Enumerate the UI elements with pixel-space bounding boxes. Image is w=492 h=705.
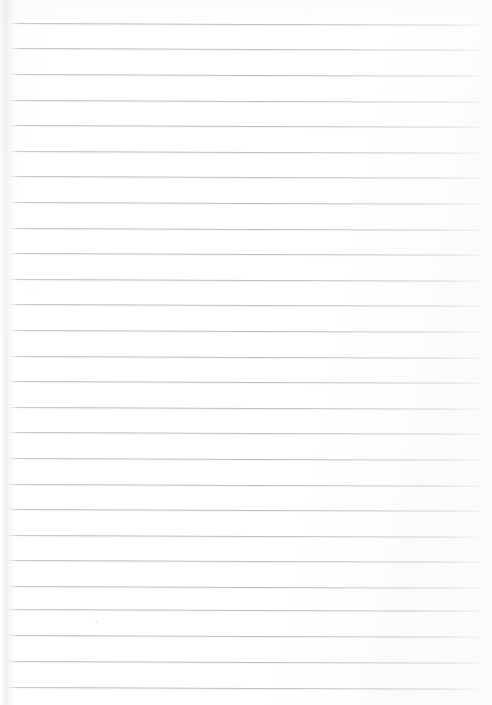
scanned-page bbox=[0, 0, 492, 705]
scan-speck bbox=[390, 655, 392, 657]
rule-line bbox=[10, 100, 486, 103]
rule-line bbox=[9, 202, 485, 205]
rule-line bbox=[10, 74, 486, 77]
rule-line bbox=[8, 535, 484, 538]
rule-line bbox=[8, 560, 484, 563]
rule-line bbox=[9, 356, 485, 359]
scan-speck bbox=[308, 11, 310, 13]
rule-line bbox=[8, 484, 484, 487]
rule-line bbox=[9, 330, 485, 333]
scan-speck bbox=[31, 290, 33, 292]
rule-line bbox=[7, 661, 483, 664]
rule-line bbox=[10, 48, 486, 51]
rule-line bbox=[10, 125, 486, 128]
rule-line bbox=[9, 304, 485, 307]
rule-line bbox=[8, 458, 484, 461]
rule-line bbox=[8, 509, 484, 512]
scan-speck bbox=[95, 620, 98, 623]
rule-line bbox=[9, 151, 485, 154]
rule-line bbox=[9, 176, 485, 179]
rule-line bbox=[8, 609, 484, 612]
rule-line bbox=[8, 407, 484, 410]
rule-line bbox=[9, 253, 485, 256]
rule-line bbox=[9, 228, 485, 231]
ruled-lines-layer bbox=[0, 0, 492, 705]
rule-line bbox=[8, 635, 484, 638]
rule-line bbox=[9, 381, 485, 384]
rule-line bbox=[10, 23, 486, 26]
rule-line bbox=[8, 586, 484, 589]
rule-line bbox=[7, 687, 483, 690]
rule-line bbox=[8, 432, 484, 435]
rule-line bbox=[9, 279, 485, 282]
